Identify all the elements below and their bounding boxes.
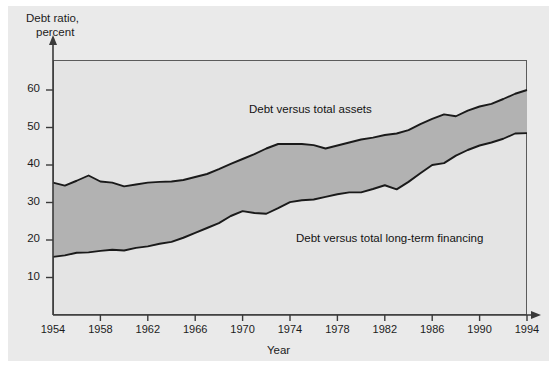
x-axis-ticks [100,315,527,321]
x-axis-arrow-icon [531,311,541,319]
area-band-between-series [53,90,527,257]
band-area-group [53,90,527,257]
figure-canvas: Debt ratio, percent 102030405060 1954195… [0,0,557,383]
chart-svg [0,0,557,383]
y-axis-ticks [46,90,53,278]
y-axis-arrow-icon [49,35,57,45]
